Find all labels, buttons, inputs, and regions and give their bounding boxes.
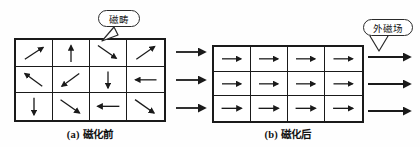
aligned-cell-r1c2 [251, 47, 288, 72]
domain-grid-unmagnetized [14, 38, 166, 122]
caption-panel-b: (b) 磁化后 [212, 126, 364, 141]
domain-cell-r3c4 [127, 93, 164, 120]
aligned-cell-r3c1 [214, 96, 251, 121]
aligned-cell-r1c4 [325, 47, 362, 72]
callout-external-field: 外磁场 [363, 19, 413, 36]
aligned-cell-r2c1 [214, 72, 251, 97]
aligned-cell-r2c3 [288, 72, 325, 97]
aligned-cell-r1c3 [288, 47, 325, 72]
callout-magnetic-domain-label: 磁畴 [109, 12, 129, 26]
domain-cell-r3c2 [53, 93, 90, 120]
aligned-cell-r2c2 [251, 72, 288, 97]
aligned-cell-r3c2 [251, 96, 288, 121]
domain-cell-r3c1 [16, 93, 53, 120]
callout-external-field-label: 外磁场 [373, 21, 403, 35]
callout-magnetic-domain: 磁畴 [98, 10, 140, 27]
aligned-cell-r3c4 [325, 96, 362, 121]
domain-cell-r2c2 [53, 67, 90, 94]
domain-cell-r3c3 [90, 93, 127, 120]
aligned-cell-r3c3 [288, 96, 325, 121]
caption-panel-a: (a) 磁化前 [14, 126, 166, 141]
callout-magnetic-domain-tail [96, 25, 136, 47]
aligned-cell-r2c4 [325, 72, 362, 97]
aligned-cell-r1c1 [214, 47, 251, 72]
external-field-arrows [366, 45, 418, 123]
domain-cell-r1c2 [53, 40, 90, 67]
domain-cell-r2c4 [127, 67, 164, 94]
callout-external-field-tail [364, 34, 400, 56]
domain-cell-r2c1 [16, 67, 53, 94]
process-arrows [172, 38, 212, 122]
domain-cell-r1c1 [16, 40, 53, 67]
domain-cell-r2c3 [90, 67, 127, 94]
domain-grid-magnetized [212, 45, 364, 123]
magnetization-figure: 磁畴 [0, 0, 420, 147]
